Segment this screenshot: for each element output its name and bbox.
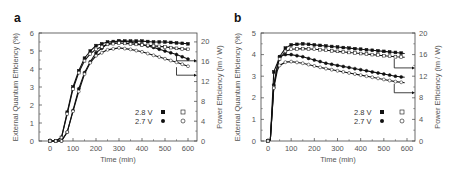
y2-tick-label: 12 — [201, 77, 209, 86]
figure: a01234560481216200100200300400500600Time… — [0, 0, 457, 171]
panel-label: a — [14, 11, 21, 25]
axis-arrow — [394, 84, 413, 93]
x-tick-label: 400 — [354, 144, 367, 153]
x-tick-label: 100 — [67, 144, 80, 153]
filled-square-icon — [161, 110, 165, 114]
y2-tick-label: 12 — [419, 72, 427, 81]
filled-circle-icon — [161, 119, 165, 123]
y2-tick-label: 0 — [419, 137, 423, 146]
x-tick-label: 500 — [378, 144, 391, 153]
axis-arrow — [177, 67, 196, 75]
x-tick-label: 600 — [401, 144, 414, 153]
y2-tick-label: 8 — [201, 97, 205, 106]
x-tick-label: 200 — [90, 144, 103, 153]
series-3 — [49, 42, 190, 143]
y2-axis-label: Power Efficiency (lm / W) — [215, 45, 224, 129]
legend-label-2-8v: 2.8 V — [135, 108, 153, 117]
series-1 — [49, 40, 190, 143]
y-axis-label: External Quantum Efficiency (%) — [233, 32, 242, 141]
legend-label-2-7v: 2.7 V — [135, 117, 153, 126]
axis-arrow — [394, 59, 413, 68]
y2-tick-label: 20 — [201, 37, 209, 46]
legend-label-2-8v: 2.8 V — [354, 108, 372, 117]
axis-arrow — [177, 53, 196, 61]
filled-square-icon — [380, 110, 384, 114]
y2-tick-label: 16 — [201, 57, 209, 66]
y2-tick-label: 0 — [201, 137, 205, 146]
y-tick-label: 1 — [30, 119, 34, 128]
legend-label-2-7v: 2.7 V — [354, 117, 372, 126]
x-tick-label: 400 — [136, 144, 149, 153]
y-tick-label: 2 — [252, 93, 256, 102]
y-axis-label: External Quantum Efficiency (%) — [11, 32, 20, 141]
series-1 — [267, 42, 405, 142]
y2-tick-label: 4 — [201, 117, 205, 126]
panel-b-chart: b0123450481216200100200300400500600Time … — [233, 11, 442, 164]
y-tick-label: 4 — [30, 65, 34, 74]
open-circle-icon — [400, 119, 404, 123]
y-tick-label: 2 — [30, 101, 34, 110]
y-tick-label: 3 — [252, 72, 256, 81]
x-tick-label: 100 — [285, 144, 298, 153]
open-square-icon — [400, 110, 404, 114]
y2-tick-label: 16 — [419, 50, 427, 59]
y-tick-label: 3 — [30, 83, 34, 92]
panel-label: b — [234, 11, 241, 25]
x-tick-label: 500 — [159, 144, 172, 153]
x-axis-label: Time (min) — [320, 155, 356, 164]
y2-tick-label: 4 — [419, 115, 423, 124]
open-circle-icon — [181, 119, 185, 123]
x-tick-label: 600 — [182, 144, 195, 153]
x-axis-label: Time (min) — [100, 155, 136, 164]
legend: 2.8 V2.7 V — [135, 108, 185, 126]
y2-tick-label: 20 — [419, 29, 427, 38]
x-tick-label: 300 — [331, 144, 344, 153]
y-tick-label: 0 — [30, 137, 34, 146]
filled-circle-icon — [380, 119, 384, 123]
y-tick-label: 1 — [252, 115, 256, 124]
y-tick-label: 0 — [252, 137, 256, 146]
y-tick-label: 6 — [30, 29, 34, 38]
panel-a-chart: a01234560481216200100200300400500600Time… — [11, 11, 224, 164]
x-tick-label: 200 — [308, 144, 321, 153]
y-tick-label: 4 — [252, 50, 256, 59]
y2-tick-label: 8 — [419, 93, 423, 102]
y2-axis-label: Power Efficiency (lm / W) — [433, 45, 442, 129]
open-square-icon — [181, 110, 185, 114]
y-tick-label: 5 — [30, 47, 34, 56]
series-2 — [267, 53, 405, 142]
y-tick-label: 5 — [252, 29, 256, 38]
series-2 — [49, 40, 190, 143]
x-tick-label: 0 — [48, 144, 52, 153]
x-tick-label: 300 — [113, 144, 126, 153]
x-tick-label: 0 — [266, 144, 270, 153]
series-4 — [49, 46, 190, 142]
legend: 2.8 V2.7 V — [354, 108, 404, 126]
